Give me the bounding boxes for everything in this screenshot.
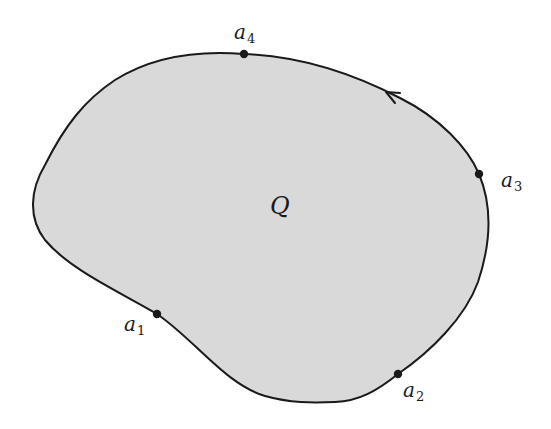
point-index: 1 [137,323,145,338]
point-label-a3: a3 [501,170,522,190]
point-letter: a [124,312,136,336]
point-index: 2 [416,389,424,404]
region-label-q: Q [270,194,290,218]
point-letter: a [501,168,513,192]
point-index: 4 [247,31,255,46]
point-a2-marker [394,370,402,378]
point-a1-marker [153,310,161,318]
point-label-a2: a2 [403,380,424,400]
point-letter: a [403,378,415,402]
point-index: 3 [514,179,522,194]
region-q-boundary [33,53,489,402]
point-a4-marker [240,50,248,58]
point-a3-marker [475,170,483,178]
point-label-a1: a1 [124,314,145,334]
point-letter: a [234,20,246,44]
point-label-a4: a4 [234,22,255,42]
